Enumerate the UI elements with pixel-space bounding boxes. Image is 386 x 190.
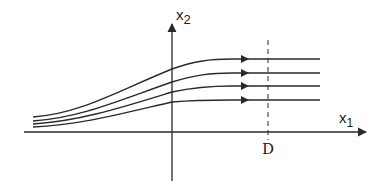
x2-axis-label: x2 (176, 6, 191, 27)
x1-label-base: x (339, 109, 347, 126)
flow-arrows (241, 55, 249, 104)
streamline-3 (33, 86, 320, 124)
x2-label-base: x (176, 6, 184, 23)
streamline-1 (33, 59, 320, 117)
streamline-2 (33, 73, 320, 121)
x1-axis-label: x1 (339, 109, 353, 130)
x2-label-sub: 2 (184, 12, 191, 27)
arrow-icon (241, 69, 249, 77)
streamlines (33, 59, 320, 127)
x1-label-sub: 1 (347, 116, 354, 130)
arrow-icon (241, 55, 249, 63)
d-marker-label: D (262, 140, 274, 158)
arrow-icon (241, 82, 249, 90)
streamline-diagram: x2 x1 D (0, 0, 386, 190)
diagram-canvas (0, 0, 386, 190)
arrow-icon (241, 96, 249, 104)
